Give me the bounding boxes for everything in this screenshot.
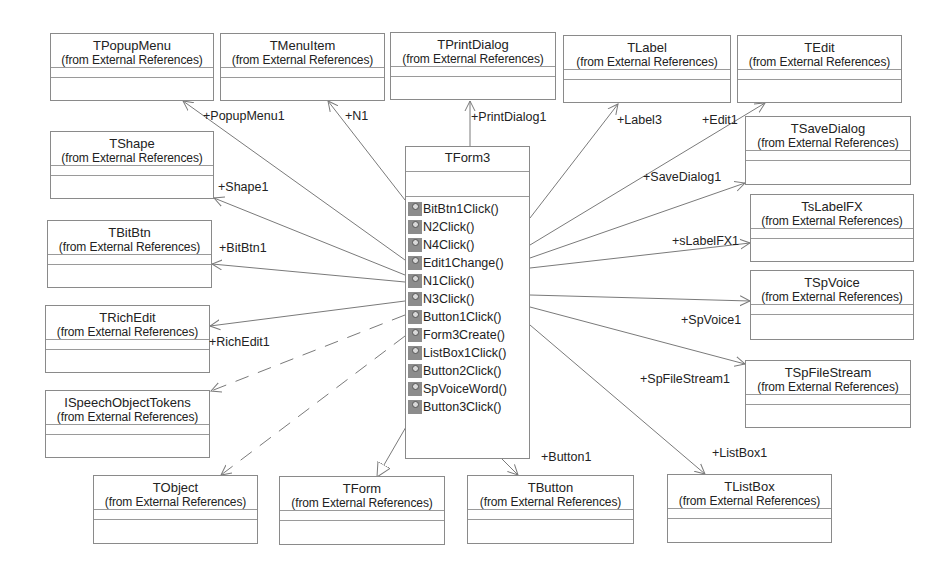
class-package: (from External References) [46, 325, 209, 340]
role-label-button1: +Button1 [541, 450, 591, 464]
class-header: TsLabelFX(from External References) [751, 195, 913, 229]
class-name: TSaveDialog [746, 121, 910, 136]
class-package: (from External References) [751, 290, 913, 305]
operations-compartment [564, 80, 730, 100]
operation[interactable]: Edit1Change() [406, 254, 529, 272]
class-tlistbox[interactable]: TListBox(from External References) [667, 474, 832, 543]
operation[interactable]: N2Click() [406, 218, 529, 236]
role-label-savedialog1: +SaveDialog1 [643, 170, 721, 184]
class-header: ISpeechObjectTokens(from External Refere… [46, 391, 209, 425]
class-header: TLabel(from External References) [564, 36, 730, 70]
public-operation-icon [408, 238, 422, 252]
attributes-compartment [738, 70, 901, 80]
operations-compartment [51, 78, 213, 98]
class-tform3[interactable]: TForm3 BitBtn1Click() N2Click() N4Click(… [405, 146, 530, 459]
role-label-label3: +Label3 [617, 113, 662, 127]
class-name: TPrintDialog [391, 37, 555, 52]
class-package: (from External References) [746, 380, 910, 395]
class-header: TButton(from External References) [468, 476, 633, 510]
operation-label: N3Click() [423, 292, 474, 306]
class-package: (from External References) [51, 151, 213, 166]
attributes-compartment [468, 510, 633, 520]
class-tlabel[interactable]: TLabel(from External References) [563, 35, 731, 103]
assoc-popupmenu [183, 101, 405, 260]
class-name: TListBox [668, 479, 831, 494]
class-name: TSpFileStream [746, 365, 910, 380]
operation[interactable]: N4Click() [406, 236, 529, 254]
public-operation-icon [408, 202, 422, 216]
class-package: (from External References) [46, 410, 209, 425]
assoc-spvoice [530, 295, 750, 301]
attributes-compartment [221, 68, 384, 78]
operation[interactable]: Button2Click() [406, 362, 529, 380]
class-header: TListBox(from External References) [668, 475, 831, 509]
class-tform[interactable]: TForm(from External References) [279, 476, 445, 545]
attributes-compartment [280, 511, 444, 521]
class-package: (from External References) [751, 214, 913, 229]
operations-compartment [468, 520, 633, 540]
operations-compartment: BitBtn1Click() N2Click() N4Click() Edit1… [406, 197, 529, 416]
operation[interactable]: ListBox1Click() [406, 344, 529, 362]
class-name: TPopupMenu [51, 38, 213, 53]
operations-compartment [738, 80, 901, 100]
class-tobject[interactable]: TObject(from External References) [93, 475, 258, 544]
dep-tobject [221, 336, 405, 475]
class-tprintdialog[interactable]: TPrintDialog(from External References) [390, 32, 556, 100]
class-header: TSpVoice(from External References) [751, 271, 913, 305]
attributes-compartment [564, 70, 730, 80]
class-tbitbtn[interactable]: TBitBtn(from External References) [47, 220, 212, 288]
class-name: TMenuItem [221, 38, 384, 53]
class-ispeechobjecttokens[interactable]: ISpeechObjectTokens(from External Refere… [45, 390, 210, 458]
public-operation-icon [408, 310, 422, 324]
class-tmenuitem[interactable]: TMenuItem(from External References) [220, 33, 385, 101]
class-tbutton[interactable]: TButton(from External References) [467, 475, 634, 544]
operation[interactable]: Button3Click() [406, 398, 529, 416]
operations-compartment [751, 315, 913, 335]
operation[interactable]: N3Click() [406, 290, 529, 308]
class-tshape[interactable]: TShape(from External References) [50, 131, 214, 199]
class-tspfilestream[interactable]: TSpFileStream(from External References) [745, 360, 911, 428]
public-operation-icon [408, 328, 422, 342]
class-tpopupmenu[interactable]: TPopupMenu(from External References) [50, 33, 214, 101]
assoc-shape [214, 198, 405, 275]
role-label-shape1: +Shape1 [218, 180, 268, 194]
operations-compartment [221, 78, 384, 98]
assoc-button [502, 459, 518, 475]
public-operation-icon [408, 292, 422, 306]
class-name: TRichEdit [46, 310, 209, 325]
operations-compartment [391, 77, 555, 97]
operation-label: SpVoiceWord() [423, 382, 507, 396]
operation-label: Form3Create() [423, 328, 505, 342]
operation[interactable]: SpVoiceWord() [406, 380, 529, 398]
public-operation-icon [408, 220, 422, 234]
class-tspvoice[interactable]: TSpVoice(from External References) [750, 270, 914, 340]
class-trichedit[interactable]: TRichEdit(from External References) [45, 305, 210, 373]
public-operation-icon [408, 274, 422, 288]
public-operation-icon [408, 256, 422, 270]
attributes-compartment [48, 255, 211, 265]
dep-ispeechobjecttokens [211, 315, 405, 391]
class-name: TEdit [738, 40, 901, 55]
operation-label: BitBtn1Click() [423, 202, 499, 216]
role-label-slabelfx1: +sLabelFX1 [672, 234, 739, 248]
operation[interactable]: N1Click() [406, 272, 529, 290]
role-label-spfilestream1: +SpFileStream1 [640, 372, 730, 386]
operations-compartment [746, 161, 910, 181]
operations-compartment [280, 521, 444, 541]
class-header: TEdit(from External References) [738, 36, 901, 70]
class-package: (from External References) [564, 55, 730, 70]
operation-label: Button1Click() [423, 310, 502, 324]
operation-label: N1Click() [423, 274, 474, 288]
public-operation-icon [408, 382, 422, 396]
class-name: TForm [280, 481, 444, 496]
attributes-compartment [46, 340, 209, 350]
class-header: TPopupMenu(from External References) [51, 34, 213, 68]
operation[interactable]: BitBtn1Click() [406, 200, 529, 218]
operation[interactable]: Form3Create() [406, 326, 529, 344]
class-tslabelfx[interactable]: TsLabelFX(from External References) [750, 194, 914, 262]
operation[interactable]: Button1Click() [406, 308, 529, 326]
class-package: (from External References) [746, 136, 910, 151]
attributes-compartment [391, 67, 555, 77]
class-tedit[interactable]: TEdit(from External References) [737, 35, 902, 103]
class-tsavedialog[interactable]: TSaveDialog(from External References) [745, 116, 911, 185]
